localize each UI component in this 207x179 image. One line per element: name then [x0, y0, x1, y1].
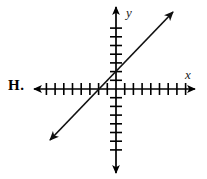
plotted-line: [50, 12, 173, 140]
y-axis-label: y: [124, 5, 132, 20]
x-axis-label: x: [184, 67, 191, 82]
coordinate-plane-graphic: x y: [0, 0, 207, 179]
graph-figure: H.: [0, 0, 207, 179]
